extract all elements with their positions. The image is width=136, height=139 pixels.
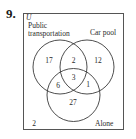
region-public-only: 17 xyxy=(45,57,53,65)
set-label-public-line2: transportation xyxy=(28,30,70,38)
region-public-carpool: 2 xyxy=(72,57,76,65)
region-carpool-only: 12 xyxy=(94,57,102,65)
set-label-alone: Alone xyxy=(95,120,113,128)
set-label-car-pool: Car pool xyxy=(90,29,116,37)
region-outside: 2 xyxy=(32,120,36,128)
region-carpool-alone: 1 xyxy=(86,81,90,89)
venn-diagram xyxy=(0,0,136,139)
region-public-alone: 6 xyxy=(56,82,60,90)
region-alone-only: 27 xyxy=(69,99,77,107)
region-all-three: 3 xyxy=(72,74,76,82)
